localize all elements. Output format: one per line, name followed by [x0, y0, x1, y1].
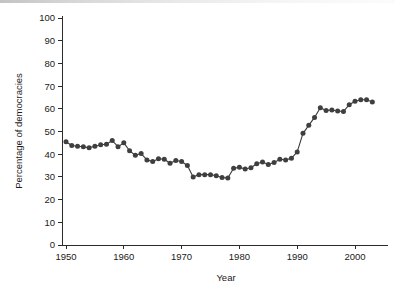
data-point — [329, 107, 334, 112]
chart-background — [0, 0, 395, 290]
data-point — [69, 143, 74, 148]
x-tick-label: 1960 — [113, 251, 134, 262]
data-point — [196, 172, 201, 177]
data-point — [208, 172, 213, 177]
data-point — [87, 145, 92, 150]
x-tick-label: 1950 — [55, 251, 76, 262]
data-point — [75, 144, 80, 149]
x-axis-label: Year — [216, 272, 235, 283]
data-point — [110, 138, 115, 143]
data-point — [341, 109, 346, 114]
data-point — [324, 108, 329, 113]
data-point — [266, 162, 271, 167]
data-point — [92, 144, 97, 149]
x-tick-label: 2000 — [344, 251, 365, 262]
data-point — [295, 149, 300, 154]
data-point — [300, 131, 305, 136]
y-tick-label: 50 — [44, 126, 55, 137]
data-point — [185, 163, 190, 168]
data-point — [64, 139, 69, 144]
data-point — [168, 161, 173, 166]
data-point — [202, 172, 207, 177]
data-point — [214, 173, 219, 178]
data-point — [139, 151, 144, 156]
line-chart: 0102030405060708090100 19501960197019801… — [0, 0, 395, 290]
data-point — [272, 160, 277, 165]
data-point — [243, 166, 248, 171]
data-point — [156, 156, 161, 161]
data-point — [173, 158, 178, 163]
data-point — [127, 148, 132, 153]
data-point — [191, 174, 196, 179]
data-point — [254, 161, 259, 166]
data-point — [150, 159, 155, 164]
chart-figure: 0102030405060708090100 19501960197019801… — [0, 0, 395, 290]
data-point — [318, 105, 323, 110]
data-point — [358, 97, 363, 102]
y-axis-label: Percentage of democracies — [13, 73, 24, 189]
data-point — [121, 140, 126, 145]
data-point — [260, 159, 265, 164]
data-point — [335, 109, 340, 114]
y-tick-label: 0 — [50, 239, 55, 250]
data-point — [81, 144, 86, 149]
data-point — [248, 165, 253, 170]
y-tick-label: 100 — [39, 12, 55, 23]
data-point — [277, 157, 282, 162]
y-tick-label: 90 — [44, 35, 55, 46]
y-tick-label: 10 — [44, 217, 55, 228]
y-tick-label: 40 — [44, 149, 55, 160]
data-point — [237, 165, 242, 170]
y-tick-label: 60 — [44, 103, 55, 114]
data-point — [98, 142, 103, 147]
x-tick-label: 1970 — [171, 251, 192, 262]
data-point — [133, 153, 138, 158]
data-point — [347, 102, 352, 107]
data-point — [116, 144, 121, 149]
data-point — [220, 175, 225, 180]
data-point — [289, 156, 294, 161]
data-point — [144, 157, 149, 162]
x-tick-label: 1980 — [229, 251, 250, 262]
data-point — [353, 99, 358, 104]
y-tick-label: 80 — [44, 58, 55, 69]
data-point — [225, 176, 230, 181]
data-point — [370, 99, 375, 104]
data-point — [306, 123, 311, 128]
data-point — [312, 115, 317, 120]
x-tick-label: 1990 — [287, 251, 308, 262]
y-tick-label: 70 — [44, 81, 55, 92]
y-tick-label: 20 — [44, 194, 55, 205]
data-point — [364, 97, 369, 102]
data-point — [104, 142, 109, 147]
scan-artifact-band — [0, 0, 395, 3]
data-point — [162, 157, 167, 162]
y-tick-label: 30 — [44, 171, 55, 182]
data-point — [231, 166, 236, 171]
data-point — [283, 157, 288, 162]
data-point — [179, 159, 184, 164]
